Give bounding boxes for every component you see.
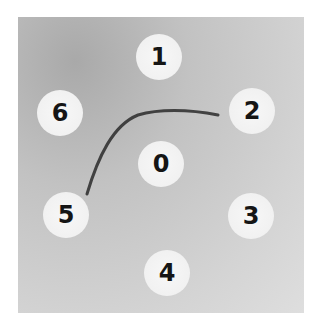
- well-0-center: 0: [138, 141, 184, 187]
- well-6: 6: [37, 90, 83, 136]
- well-4: 4: [144, 250, 190, 296]
- well-3: 3: [228, 193, 274, 239]
- well-label: 3: [243, 202, 260, 230]
- well-label: 4: [159, 259, 176, 287]
- well-label: 0: [153, 150, 170, 178]
- well-label: 2: [244, 97, 261, 125]
- well-5: 5: [43, 192, 89, 238]
- well-label: 6: [52, 99, 69, 127]
- well-1: 1: [136, 34, 182, 80]
- well-label: 1: [151, 43, 168, 71]
- well-label: 5: [58, 201, 75, 229]
- well-2: 2: [229, 88, 275, 134]
